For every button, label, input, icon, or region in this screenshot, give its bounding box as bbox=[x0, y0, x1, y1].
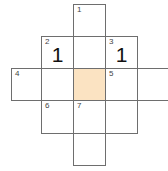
cell-value: 1 bbox=[106, 44, 137, 65]
grid-cell[interactable]: 2 1 bbox=[41, 36, 74, 69]
grid-cell[interactable]: 4 bbox=[11, 68, 42, 101]
grid-cell[interactable] bbox=[73, 36, 106, 69]
clue-number: 6 bbox=[45, 102, 49, 110]
grid-cell[interactable] bbox=[41, 68, 74, 101]
grid-cell[interactable] bbox=[137, 68, 168, 101]
clue-number: 5 bbox=[109, 70, 113, 78]
grid-cell[interactable] bbox=[73, 133, 106, 166]
clue-number: 4 bbox=[15, 70, 19, 78]
grid-cell-selected[interactable] bbox=[73, 68, 106, 101]
clue-number: 1 bbox=[77, 6, 81, 14]
grid-cell[interactable]: 1 bbox=[73, 4, 106, 37]
grid-cell[interactable]: 3 1 bbox=[105, 36, 138, 69]
puzzle-grid: 1 2 1 3 1 4 5 6 7 bbox=[0, 0, 168, 171]
grid-cell[interactable]: 6 bbox=[41, 100, 74, 134]
grid-cell[interactable] bbox=[105, 100, 138, 134]
grid-cell[interactable]: 7 bbox=[73, 100, 106, 134]
grid-cell[interactable]: 5 bbox=[105, 68, 138, 101]
clue-number: 7 bbox=[77, 102, 81, 110]
cell-value: 1 bbox=[42, 44, 73, 65]
